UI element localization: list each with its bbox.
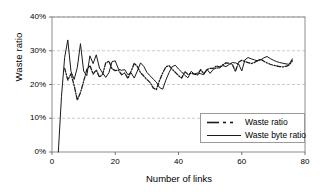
legend: Waste ratio Waste byte ratio xyxy=(200,113,305,143)
y-tick-label: 40% xyxy=(20,12,46,21)
y-tick-label: 20% xyxy=(20,80,46,89)
y-tick-label: 0% xyxy=(20,147,46,156)
x-tick-label: 40 xyxy=(167,157,191,166)
y-tick-label: 30% xyxy=(20,46,46,55)
x-tick-label: 60 xyxy=(230,157,254,166)
y-axis-title: Waste ratio xyxy=(13,7,27,107)
y-tick-label: 10% xyxy=(20,113,46,122)
x-tick-label: 80 xyxy=(293,157,317,166)
waste-ratio-chart: Waste ratio Number of links 0%10%20%30%4… xyxy=(0,0,323,192)
x-axis-title: Number of links xyxy=(52,173,306,184)
legend-label: Waste ratio xyxy=(245,117,288,127)
legend-item-waste-byte-ratio: Waste byte ratio xyxy=(205,129,306,142)
legend-key-solid-icon xyxy=(205,131,243,140)
legend-item-waste-ratio: Waste ratio xyxy=(205,116,288,129)
x-tick-label: 0 xyxy=(40,157,64,166)
legend-key-dash-dot-icon xyxy=(205,118,243,127)
x-tick-label: 20 xyxy=(103,157,127,166)
legend-label: Waste byte ratio xyxy=(245,130,306,140)
